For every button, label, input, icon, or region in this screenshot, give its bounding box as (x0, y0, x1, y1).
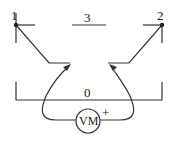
right-arrow-icon (109, 64, 117, 71)
label-node-2: 2 (157, 8, 164, 23)
label-node-3: 3 (84, 10, 91, 25)
right-lead (108, 25, 162, 63)
polarity-plus: + (102, 105, 109, 120)
voltmeter-label: VM (79, 114, 99, 128)
label-node-1: 1 (11, 8, 18, 23)
label-node-0: 0 (84, 85, 91, 100)
node-2-dot (160, 23, 164, 27)
left-meter-wire (42, 66, 76, 120)
left-lead (16, 25, 70, 63)
node-1-dot (14, 23, 18, 27)
circuit-diagram: 1 2 3 0 VM + (0, 0, 176, 145)
